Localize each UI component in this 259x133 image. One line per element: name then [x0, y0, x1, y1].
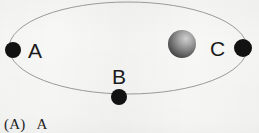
orbit-figure: A B C (A) A: [0, 0, 259, 133]
figure-caption: (A) A: [4, 117, 47, 133]
orbit-label-c: C: [210, 38, 225, 59]
orbit-label-b: B: [112, 66, 126, 87]
shaded-sphere: [168, 30, 196, 58]
orbit-label-a: A: [28, 40, 42, 61]
orbit-body-dot-c: [234, 39, 252, 57]
orbit-body-dot-a: [5, 42, 21, 58]
orbit-body-dot-b: [111, 89, 127, 105]
orbit-diagram-canvas: [0, 0, 259, 133]
